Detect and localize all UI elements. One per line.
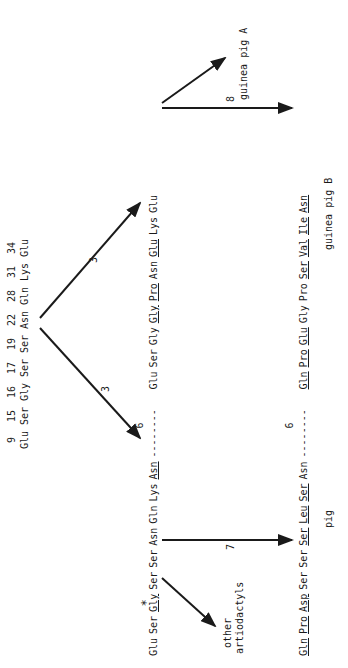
residue: Glu	[148, 195, 159, 213]
residue: Lys	[148, 484, 159, 502]
residue: Pro	[298, 616, 309, 634]
residue: Leu	[298, 506, 309, 524]
residue: Gly	[148, 327, 159, 345]
asterisk-marker: *	[139, 599, 153, 606]
branch-label-right: 3	[88, 257, 99, 263]
gap-label: 6	[284, 422, 295, 428]
residue: Ser	[148, 550, 159, 568]
residue: Asn	[148, 528, 159, 546]
intermediate-sequence-row: GluSerGly*SerSerAsnGlnLysAsn--------6Glu…	[148, 191, 159, 656]
residue: Lys	[148, 217, 159, 235]
gap: --------6	[148, 393, 159, 457]
residue: Val	[298, 239, 309, 257]
residue: Pro	[298, 349, 309, 367]
residue: Glu	[148, 239, 159, 257]
residue: Ser	[298, 572, 309, 590]
residue: Ile	[298, 217, 309, 235]
residue: Asn	[298, 195, 309, 213]
residue: Gln	[148, 506, 159, 524]
residue: Gly	[298, 305, 309, 323]
residue: Ser	[148, 616, 159, 634]
residue: Ser	[298, 550, 309, 568]
residue-marked: Gly*	[148, 594, 159, 612]
edge-label-pig: 7	[225, 544, 236, 550]
taxon-other-artiodactyls: other artiodactyls	[222, 582, 246, 654]
residue: Gln	[298, 638, 309, 656]
residue: Pro	[298, 283, 309, 301]
residue: Asn	[148, 461, 159, 479]
residue: Ser	[298, 484, 309, 502]
taxon-pig: pig	[323, 510, 334, 528]
phylogeny-diagram: 91516171922283134 GluSerGlySerSerAsnGlnL…	[0, 0, 348, 668]
residue: Ser	[148, 572, 159, 590]
residue: Glu	[298, 327, 309, 345]
residue: Gly	[148, 305, 159, 323]
terminal-sequence-row: GlnProAspSerSerSerLeuSerAsn--------6GlnP…	[298, 191, 309, 656]
residue: Glu	[148, 371, 159, 389]
branch-arrows	[0, 0, 348, 668]
taxon-guinea-pig-b: guinea pig B	[323, 178, 334, 250]
residue: Pro	[148, 283, 159, 301]
residue: Ser	[298, 528, 309, 546]
residue: Gln	[298, 371, 309, 389]
gap-label: 6	[134, 422, 145, 428]
residue: Asn	[148, 261, 159, 279]
edge-label-guinea-pig-b: 8	[225, 96, 236, 102]
residue: Asn	[298, 461, 309, 479]
gap: --------6	[298, 393, 309, 457]
residue: Ser	[298, 261, 309, 279]
residue: Ser	[148, 349, 159, 367]
residue: Asp	[298, 594, 309, 612]
residue: Glu	[148, 638, 159, 656]
branch-label-left: 3	[100, 386, 111, 392]
taxon-guinea-pig-a: guinea pig A	[238, 28, 249, 100]
